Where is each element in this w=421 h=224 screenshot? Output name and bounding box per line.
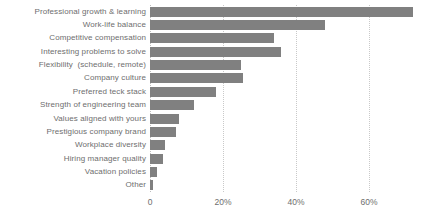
bars-container [150,5,415,192]
bar [150,167,157,177]
bar [150,7,413,17]
bar-row [150,20,415,30]
category-label: Work-life balance [0,20,146,30]
category-axis: Professional growth & learning Work-life… [0,5,146,192]
bar-row [150,73,415,83]
category-label: Interesting problems to solve [0,47,146,57]
bar-row [150,60,415,70]
category-label: Values aligned with yours [0,114,146,124]
category-label: Vacation policies [0,167,146,177]
bar [150,47,281,57]
bar [150,114,179,124]
bar-row [150,140,415,150]
x-tick-label: 60% [360,196,377,208]
bar [150,140,165,150]
bar [150,73,243,83]
x-tick-label: 40% [287,196,304,208]
category-label: Prestigious company brand [0,127,146,137]
plot-area [150,5,415,192]
bar [150,87,216,97]
bar-row [150,33,415,43]
bar-row [150,114,415,124]
category-label: Other [0,180,146,190]
bar [150,20,325,30]
category-label: Strength of engineering team [0,100,146,110]
category-label: Competitive compensation [0,33,146,43]
category-label: Professional growth & learning [0,7,146,17]
category-label: Preferred teck stack [0,87,146,97]
bar-row [150,87,415,97]
bar [150,180,153,190]
bar-row [150,154,415,164]
bar [150,60,241,70]
x-tick-label: 20% [214,196,231,208]
category-label: Workplace diversity [0,140,146,150]
category-label: Flexibility (schedule, remote) [0,60,146,70]
bar-row [150,180,415,190]
bar [150,154,163,164]
bar-row [150,7,415,17]
bar-row [150,127,415,137]
bar-row [150,47,415,57]
bar [150,127,176,137]
bar-chart: Professional growth & learning Work-life… [0,0,421,224]
x-axis: 020%40%60% [150,196,415,210]
bar [150,33,274,43]
category-label: Company culture [0,73,146,83]
bar-row [150,100,415,110]
bar [150,100,194,110]
bar-row [150,167,415,177]
category-label: Hiring manager quality [0,154,146,164]
x-tick-label: 0 [148,196,153,208]
